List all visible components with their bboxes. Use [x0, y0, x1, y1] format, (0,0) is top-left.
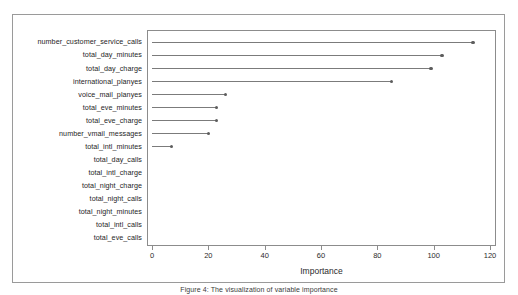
figure-caption: Figure 4: The visualization of variable … [0, 286, 518, 295]
row-value-dot [170, 145, 173, 148]
row-label: total_day_minutes [83, 50, 142, 59]
row-stem [152, 133, 208, 134]
row-stem [152, 55, 442, 56]
row-value-dot [215, 119, 218, 122]
figure-screenshot: number_customer_service_callstotal_day_m… [0, 0, 518, 295]
dotplot-rows: number_customer_service_callstotal_day_m… [0, 0, 518, 295]
dotplot-row: total_intl_calls [0, 219, 518, 231]
row-label: total_night_charge [82, 181, 142, 190]
row-stem [152, 146, 172, 147]
row-stem [152, 42, 473, 43]
row-value-dot [440, 54, 443, 57]
row-label: number_vmail_messages [59, 129, 142, 138]
row-stem [152, 81, 391, 82]
dotplot-row: number_customer_service_calls [0, 36, 518, 48]
dotplot-row: total_eve_charge [0, 115, 518, 127]
dotplot-row: total_day_minutes [0, 49, 518, 61]
dotplot-row: total_night_calls [0, 193, 518, 205]
row-stem [152, 120, 217, 121]
dotplot-row: international_planyes [0, 76, 518, 88]
row-label: voice_mail_planyes [78, 90, 142, 99]
dotplot-row: total_eve_calls [0, 232, 518, 244]
row-label: total_night_minutes [79, 207, 142, 216]
dotplot-row: voice_mail_planyes [0, 89, 518, 101]
row-value-dot [390, 80, 393, 83]
row-stem [152, 68, 431, 69]
row-stem [152, 94, 225, 95]
row-label: total_day_charge [86, 64, 142, 73]
row-label: total_intl_minutes [85, 142, 142, 151]
dotplot-row: total_day_calls [0, 154, 518, 166]
row-label: total_night_calls [90, 194, 142, 203]
row-value-dot [215, 106, 218, 109]
row-label: total_intl_charge [88, 168, 142, 177]
dotplot-row: total_night_charge [0, 180, 518, 192]
row-value-dot [207, 132, 210, 135]
row-label: number_customer_service_calls [37, 37, 142, 46]
row-value-dot [429, 67, 432, 70]
row-value-dot [471, 41, 474, 44]
row-label: total_eve_minutes [83, 103, 142, 112]
dotplot-row: total_eve_minutes [0, 102, 518, 114]
row-label: total_intl_calls [96, 220, 142, 229]
dotplot-row: total_intl_charge [0, 167, 518, 179]
dotplot-row: total_intl_minutes [0, 141, 518, 153]
row-stem [152, 107, 217, 108]
dotplot-row: total_night_minutes [0, 206, 518, 218]
row-label: total_eve_charge [86, 116, 142, 125]
x-axis-title: Importance [147, 266, 496, 276]
row-value-dot [224, 93, 227, 96]
dotplot-row: number_vmail_messages [0, 128, 518, 140]
dotplot-row: total_day_charge [0, 63, 518, 75]
row-label: total_eve_calls [94, 233, 142, 242]
row-label: international_planyes [73, 77, 142, 86]
row-label: total_day_calls [94, 155, 142, 164]
